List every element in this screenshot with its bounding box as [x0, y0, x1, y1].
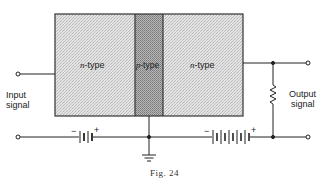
output-label-line1: Output [289, 89, 317, 99]
transistor-circuit-diagram: n-type p-type n-type Input signal Output… [0, 0, 326, 184]
output-label-line2: signal [291, 99, 315, 109]
battery-right-minus: − [204, 126, 209, 136]
bottom-bus [16, 116, 310, 155]
battery-left-minus: − [71, 126, 76, 136]
n-type-label-right: n-type [190, 60, 215, 70]
input-terminal-bottom [16, 135, 20, 139]
load-resistor-icon [270, 85, 276, 104]
output-terminal-bottom [306, 135, 310, 139]
input-wire [16, 72, 55, 76]
battery-left-icon [80, 131, 92, 143]
output-terminal-top [306, 61, 310, 65]
n-type-label-left: n-type [80, 60, 105, 70]
ground-icon [142, 155, 156, 161]
battery-right-plus: + [251, 125, 256, 135]
figure-caption: Fig. 24 [150, 168, 179, 178]
input-terminal-top [16, 72, 20, 76]
input-label-line1: Input [6, 90, 27, 100]
p-type-label: p-type [135, 60, 159, 70]
input-label-line2: signal [6, 100, 30, 110]
junction-dot-bottom-right [271, 135, 274, 138]
battery-left-plus: + [94, 125, 99, 135]
battery-right-icon [213, 130, 249, 144]
